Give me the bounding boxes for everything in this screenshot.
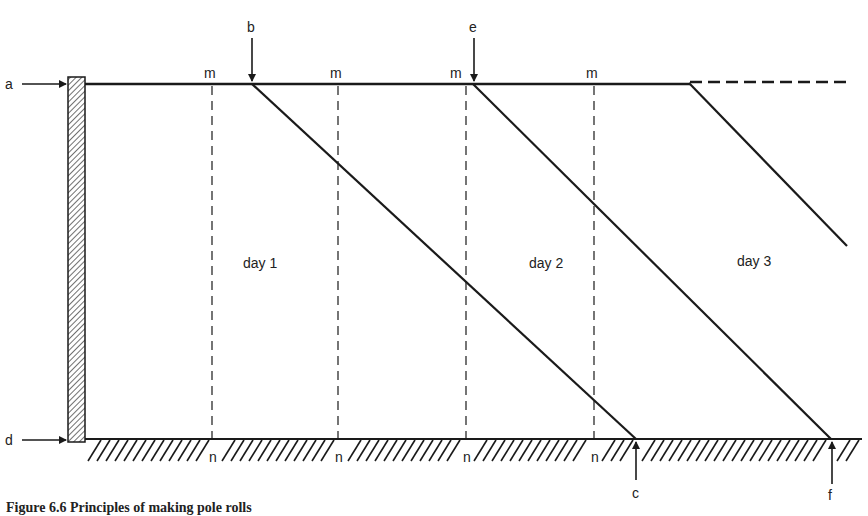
label-c: c: [632, 485, 639, 501]
label-e: e: [469, 19, 477, 35]
label-b: b: [247, 19, 255, 35]
label-day-1: day 1: [243, 255, 277, 271]
diagonal-day1: [252, 84, 636, 439]
label-n-3: n: [463, 449, 471, 465]
label-n-4: n: [591, 449, 599, 465]
label-day-2: day 2: [529, 255, 563, 271]
label-f: f: [828, 487, 832, 503]
label-day-3: day 3: [737, 253, 771, 269]
ground-hatch: [88, 440, 859, 461]
diagonal-day3: [689, 83, 847, 246]
label-n-2: n: [335, 449, 343, 465]
label-m-4: m: [586, 65, 598, 81]
diagonal-day2: [473, 84, 831, 439]
label-m-1: m: [204, 65, 216, 81]
figure-caption: Figure 6.6 Principles of making pole rol…: [6, 500, 252, 516]
label-d: d: [5, 432, 13, 448]
label-m-2: m: [330, 65, 342, 81]
left-post: [68, 77, 85, 442]
label-a: a: [5, 76, 13, 92]
label-n-1: n: [209, 449, 217, 465]
label-m-3: m: [450, 65, 462, 81]
